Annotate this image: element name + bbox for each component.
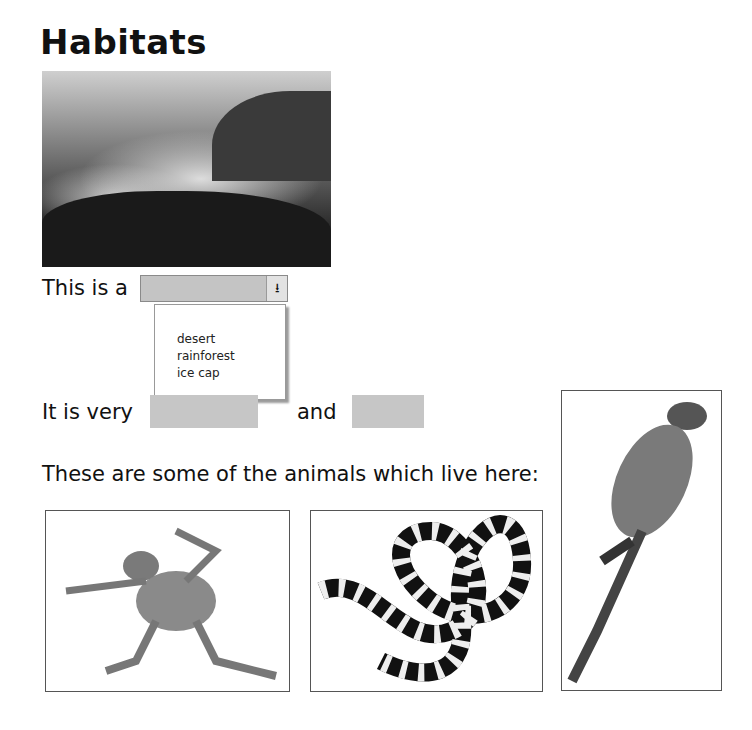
habitat-image [42,71,331,267]
blank-2[interactable] [352,395,424,428]
frog-image [45,510,290,692]
sentence1-prefix: This is a [42,276,128,300]
snake-image [310,510,543,692]
option-desert[interactable]: desert [155,331,285,348]
option-ice-cap[interactable]: ice cap [155,365,285,382]
sentence2-prefix: It is very [42,400,133,424]
page-title: Habitats [40,22,207,62]
animals-heading: These are some of the animals which live… [42,462,539,486]
cut-off-text-line [0,716,752,730]
macaw-image [561,390,722,691]
dropdown-arrow-icon[interactable]: ⭳ [266,276,287,301]
blank-1[interactable] [150,395,258,428]
sentence2-and: and [297,400,337,424]
habitat-dropdown-menu: desert rainforest ice cap [154,304,286,400]
habitat-dropdown[interactable]: ⭳ [140,275,288,302]
option-rainforest[interactable]: rainforest [155,348,285,365]
